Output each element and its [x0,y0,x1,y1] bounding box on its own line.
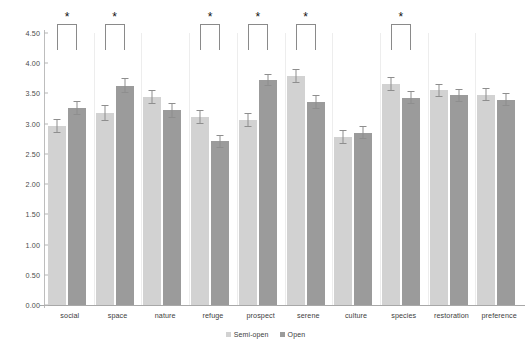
bar-group-serene [285,33,333,305]
bracket-leg-right [410,24,411,50]
bracket-leg-right [267,24,268,50]
error-bar-stem [295,69,296,84]
bar-serene-open [307,102,325,305]
error-bar-cap-top [407,91,414,92]
error-bar [312,95,319,110]
error-bar-stem [506,93,507,106]
y-axis-tick-label: 3.00 [26,119,40,128]
legend-swatch-icon [226,332,231,337]
bracket-leg-right [315,24,316,50]
bar-prospect-semi-open [239,120,257,305]
bar-fill [259,80,277,305]
y-axis-tick-labels: 0.000.501.001.502.002.503.003.504.004.50 [0,0,40,351]
error-bar [264,74,271,86]
error-bar [292,69,299,84]
chart-legend: Semi-openOpen [0,331,531,338]
bar-fill [402,98,420,305]
bar-species-open [402,98,420,305]
error-bar [169,103,176,118]
error-bar-cap-bottom [149,103,156,104]
error-bar-stem [220,135,221,148]
error-bar-stem [57,119,58,134]
error-bar [503,93,510,106]
bar-fill [96,113,114,305]
error-bar-cap-bottom [74,114,81,115]
error-bar-cap-bottom [483,100,490,101]
error-bar-cap-top [483,88,490,89]
bar-fill [143,97,161,305]
bar-group-preference [475,33,523,305]
y-axis-tick-label: 1.50 [26,210,40,219]
error-bar-cap-top [455,89,462,90]
x-axis-label-space: space [94,311,142,320]
bar-group-nature [141,33,189,305]
bar-fill [48,126,66,305]
error-bar-stem [152,90,153,103]
bar-nature-semi-open [143,97,161,305]
error-bar [387,77,394,92]
bracket-leg-left [296,24,297,50]
bar-space-semi-open [96,113,114,305]
bar-fill [191,117,209,305]
bar-refuge-semi-open [191,117,209,305]
error-bar-cap-top [169,103,176,104]
bar-fill [163,110,181,305]
error-bar-cap-bottom [169,117,176,118]
error-bar-cap-top [360,126,367,127]
significance-asterisk: * [303,11,308,23]
error-bar-cap-bottom [340,143,347,144]
error-bar-stem [247,113,248,126]
bar-fill [68,108,86,305]
bracket-leg-left [105,24,106,50]
error-bar-cap-top [54,119,61,120]
error-bar-stem [77,101,78,116]
error-bar [407,91,414,104]
y-axis-tick-label: 2.50 [26,149,40,158]
error-bar-cap-bottom [292,82,299,83]
error-bar-stem [104,105,105,121]
x-axis-label-preference: preference [475,311,523,320]
error-bar-stem [363,126,364,139]
error-bar-cap-bottom [387,90,394,91]
error-bar-cap-bottom [101,120,108,121]
legend-item-label: Semi-open [234,331,269,338]
error-bar [74,101,81,116]
error-bar-cap-top [435,84,442,85]
grouped-bar-chart: 0.000.501.001.502.002.503.003.504.004.50… [0,0,531,351]
legend-item-semi: Semi-open [226,331,269,338]
y-axis-tick-label: 0.00 [26,301,40,310]
significance-asterisk: * [255,11,260,23]
bar-fill [497,100,515,306]
error-bar-cap-top [503,93,510,94]
error-bar [483,88,490,101]
error-bar-cap-bottom [264,85,271,86]
bar-fill [430,90,448,305]
legend-swatch-icon [280,332,285,337]
bar-fill [354,133,372,305]
significance-bracket-social: * [57,24,77,50]
bar-fill [239,120,257,305]
bracket-leg-left [248,24,249,50]
bar-group-space [94,33,142,305]
y-axis-tick-label: 0.50 [26,270,40,279]
bar-fill [450,95,468,305]
error-bar-stem [343,130,344,143]
bracket-leg-left [391,24,392,50]
error-bar-stem [410,91,411,104]
error-bar [197,110,204,125]
error-bar-cap-bottom [121,92,128,93]
bar-culture-semi-open [334,137,352,305]
bar-preference-semi-open [477,95,495,305]
error-bar-cap-bottom [503,105,510,106]
error-bar-cap-bottom [407,103,414,104]
error-bar-stem [486,88,487,101]
x-axis-label-species: species [380,311,428,320]
error-bar-cap-bottom [217,147,224,148]
bar-fill [382,84,400,305]
error-bar [121,78,128,93]
y-axis-tick-label: 3.50 [26,89,40,98]
error-bar [340,130,347,143]
bar-fill [287,76,305,305]
x-axis-label-social: social [46,311,94,320]
y-axis-tick-label: 4.00 [26,59,40,68]
